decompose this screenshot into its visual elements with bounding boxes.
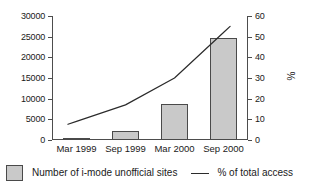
- y-axis-right-tick-label: 40: [255, 53, 265, 62]
- y-axis-right-tick-label: 0: [255, 136, 260, 145]
- y-axis-right-tick: [248, 119, 252, 120]
- x-axis-tick-label: Mar 1999: [56, 143, 96, 154]
- legend-label-bar: Number of i-mode unofficial sites: [32, 167, 177, 179]
- chart-legend: Number of i-mode unofficial sites % of t…: [6, 162, 313, 184]
- y-axis-right-tick-label: 20: [255, 94, 265, 103]
- x-axis-tick-label: Mar 2000: [154, 143, 194, 154]
- y-axis-right-tick: [248, 37, 252, 38]
- y-axis-right-tick: [248, 140, 252, 141]
- y-axis-left-tick-label: 25000: [21, 32, 45, 41]
- x-axis-tick-label: Sep 2000: [203, 143, 244, 154]
- y-axis-right-tick: [248, 99, 252, 100]
- y-axis-right-tick-label: 30: [255, 74, 265, 83]
- y-axis-left-tick-label: 0: [40, 136, 45, 145]
- y-axis-left-tick-label: 15000: [21, 74, 45, 83]
- y-axis-left-tick-label: 10000: [21, 94, 45, 103]
- line-series-group: [52, 16, 248, 140]
- chart-figure: 050001000015000200002500030000 010203040…: [0, 0, 319, 188]
- y-axis-right-tick-label: 10: [255, 115, 265, 124]
- y-axis-right-tick-label: 60: [255, 12, 265, 21]
- y-axis-right-tick: [248, 78, 252, 79]
- y-axis-right-title: %: [287, 72, 297, 81]
- x-axis-tick-label: Sep 1999: [105, 143, 146, 154]
- y-axis-left-tick: [48, 140, 52, 141]
- legend-swatch-bar: [6, 165, 23, 181]
- y-axis-left-tick-label: 5000: [26, 115, 45, 124]
- y-axis-left-tick-label: 30000: [21, 12, 45, 21]
- y-axis-left-tick-label: 20000: [21, 53, 45, 62]
- y-axis-right-tick: [248, 16, 252, 17]
- legend-label-line: % of total access: [217, 167, 293, 179]
- percent-of-total-access-line: [68, 26, 230, 124]
- plot-area: 050001000015000200002500030000 010203040…: [52, 16, 248, 140]
- y-axis-right-tick: [248, 57, 252, 58]
- x-axis-labels: Mar 1999Sep 1999Mar 2000Sep 2000: [52, 143, 248, 157]
- legend-swatch-line: [191, 173, 209, 174]
- y-axis-right-tick-label: 50: [255, 32, 265, 41]
